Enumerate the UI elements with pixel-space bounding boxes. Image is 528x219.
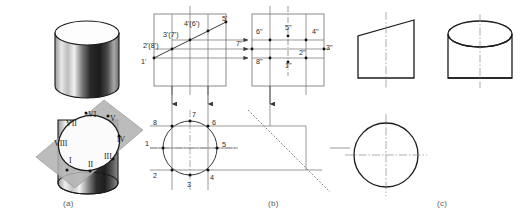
side-point-dot — [323, 48, 326, 51]
front-point-dot — [207, 30, 210, 33]
side-label-6: 6" — [256, 27, 263, 36]
front-label-1: 1' — [141, 57, 147, 66]
caption-b: (b) — [268, 199, 279, 208]
front-label-4-6: 4'(6') — [184, 19, 200, 28]
top-point-dot — [189, 120, 192, 123]
side-view-group: 6" 5" 4" 7" 3" 2" 8" 1" — [236, 6, 333, 104]
side-point-dot — [251, 48, 254, 51]
section-point-dot — [66, 169, 69, 172]
top-point-dot — [207, 169, 210, 172]
top-label-3: 3 — [187, 180, 191, 189]
top-point-dot — [162, 147, 165, 150]
top-point-dot — [171, 169, 174, 172]
top-point-dot — [216, 147, 219, 150]
top-label-5: 5 — [222, 140, 226, 149]
panel-c-final-views — [340, 0, 528, 219]
section-label-II: II — [88, 160, 94, 169]
miter-construction — [248, 104, 350, 192]
side-label-4: 4" — [312, 27, 319, 36]
front-label-2-8: 2'(8') — [143, 41, 159, 50]
top-view-group: 8 7 6 1 5 2 3 4 — [145, 104, 248, 190]
section-label-V: V — [110, 114, 116, 123]
caption-a: (a) — [63, 199, 74, 208]
front-point-dot — [189, 39, 192, 42]
side-label-7: 7" — [236, 39, 243, 48]
panel-b-drawing: 1' 2'(8') 3'(7') 4'(6') 5' — [140, 0, 355, 219]
section-label-VIII: VIII — [54, 139, 68, 148]
caption-c: (c) — [437, 199, 447, 208]
side-label-1: 1" — [285, 61, 292, 70]
section-point-dot — [112, 158, 115, 161]
section-label-III: III — [104, 152, 112, 161]
side-label-5: 5" — [285, 23, 292, 32]
section-label-VII: VII — [66, 119, 77, 128]
upper-cylinder — [55, 21, 119, 98]
top-label-4: 4 — [210, 173, 214, 182]
top-point-dot — [171, 125, 174, 128]
upper-cylinder-top-ellipse — [55, 21, 119, 45]
final-side-view — [448, 14, 512, 88]
miter-line-45 — [248, 110, 330, 192]
top-point-dot — [189, 174, 192, 177]
side-point-dot — [305, 39, 308, 42]
side-point-dot — [305, 57, 308, 60]
panel-b-construction: 1' 2'(8') 3'(7') 4'(6') 5' — [140, 0, 355, 219]
top-label-8: 8 — [153, 118, 157, 127]
front-label-3-7: 3'(7') — [163, 30, 179, 39]
front-point-dot — [153, 57, 156, 60]
front-label-5: 5' — [222, 14, 228, 23]
top-label-7: 7 — [192, 110, 196, 119]
top-label-6: 6 — [212, 118, 216, 127]
side-point-dot — [287, 35, 290, 38]
front-point-dot — [171, 48, 174, 51]
final-top-view — [345, 114, 427, 196]
side-label-8: 8" — [256, 57, 263, 66]
section-label-I: I — [69, 156, 72, 165]
side-point-dot — [269, 39, 272, 42]
side-label-3: 3" — [326, 43, 333, 52]
front-view-group: 1' 2'(8') 3'(7') 4'(6') 5' — [141, 6, 248, 104]
section-point-dot — [89, 170, 92, 173]
final-front-view — [358, 12, 414, 88]
side-label-2: 2" — [299, 48, 306, 57]
top-label-2: 2 — [153, 171, 157, 180]
section-label-VI: VI — [88, 110, 97, 119]
engineering-figure: I II III IV V VI VII VIII — [0, 0, 528, 219]
top-point-dot — [207, 125, 210, 128]
section-label-IV: IV — [117, 135, 126, 144]
side-point-dot — [269, 57, 272, 60]
panel-c-drawing — [340, 0, 528, 219]
top-label-1: 1 — [145, 139, 149, 148]
